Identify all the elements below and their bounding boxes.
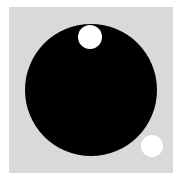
top-white-disc — [78, 25, 102, 49]
image-canvas — [0, 0, 179, 182]
bottom-right-white-disc — [141, 135, 163, 157]
